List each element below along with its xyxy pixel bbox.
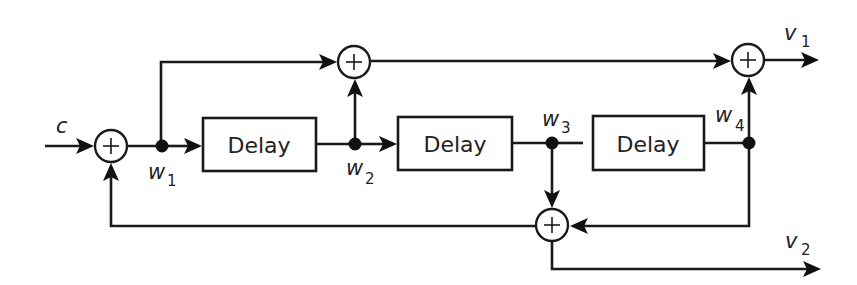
svg-text:1: 1 — [801, 33, 811, 51]
delay-block-3: Delay — [593, 116, 704, 170]
label-w2: w 2 — [346, 156, 375, 188]
label-c: c — [56, 114, 68, 138]
delay-block-1: Delay — [203, 118, 316, 171]
svg-text:4: 4 — [735, 117, 745, 135]
label-v2: v 2 — [785, 229, 811, 259]
svg-text:w: w — [148, 160, 166, 184]
label-w1: w 1 — [148, 160, 177, 190]
label-w4: w 4 — [715, 103, 745, 135]
svg-text:w: w — [346, 156, 364, 180]
wire-output-v2 — [552, 241, 808, 269]
sum-junction-input — [95, 130, 127, 162]
svg-text:w: w — [542, 107, 560, 131]
sum-junction-output — [732, 44, 764, 76]
sum-junction-bottom — [536, 209, 568, 241]
svg-text:v: v — [785, 229, 798, 253]
svg-text:3: 3 — [561, 119, 571, 137]
svg-text:v: v — [784, 21, 797, 45]
sum-junction-top — [338, 46, 370, 78]
node-w1 — [156, 140, 169, 153]
svg-text:c: c — [56, 114, 68, 138]
node-w2 — [349, 138, 362, 151]
delay-block-2-label: Delay — [423, 132, 486, 157]
node-w4 — [743, 137, 756, 150]
svg-text:w: w — [715, 103, 733, 127]
label-v1: v 1 — [784, 21, 811, 51]
block-diagram: Delay Delay Delay c w 1 w — [0, 0, 857, 285]
svg-text:2: 2 — [365, 170, 375, 188]
svg-text:2: 2 — [801, 241, 811, 259]
delay-block-1-label: Delay — [227, 133, 290, 158]
delay-block-2: Delay — [398, 117, 512, 170]
svg-text:1: 1 — [167, 172, 177, 190]
node-w3 — [546, 137, 559, 150]
delay-block-3-label: Delay — [616, 132, 679, 157]
label-w3: w 3 — [542, 107, 571, 137]
